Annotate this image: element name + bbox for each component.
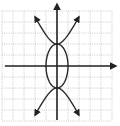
graph-plot <box>0 0 120 126</box>
